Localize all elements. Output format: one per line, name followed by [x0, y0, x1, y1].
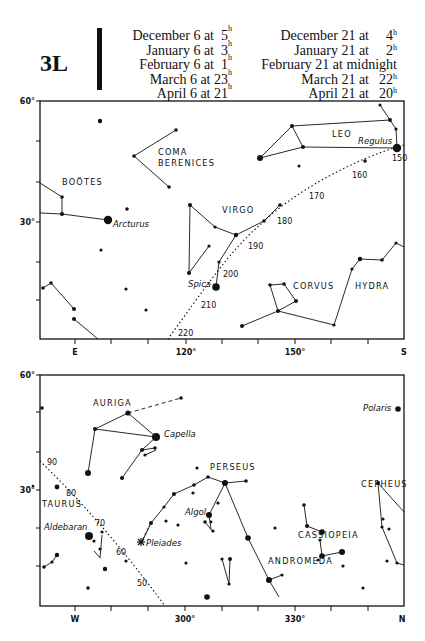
declination-label: 30° [20, 486, 35, 495]
x-axis-labels: W300°330°N [71, 615, 406, 624]
y-axis-labels: 60°30° [20, 371, 35, 495]
constellation-label: PERSEUS [210, 462, 256, 472]
ecliptic-degree-label: 90 [47, 458, 57, 467]
capella-star [152, 433, 160, 441]
ecliptic-degree-label: 70 [95, 519, 105, 528]
constellation-label: AURIGA [93, 398, 132, 408]
star-name-label: Polaris [363, 403, 392, 413]
azimuth-label: N [399, 615, 406, 624]
star-name-label: Pleiades [146, 538, 182, 548]
azimuth-label: W [71, 615, 80, 624]
ecliptic-degree-label: 80 [66, 489, 76, 498]
aldebaran-star [85, 532, 93, 540]
constellation-label: CEPHEUS [361, 479, 408, 489]
declination-label: 60° [20, 371, 35, 380]
x-axis-ticks [75, 606, 368, 611]
ecliptic-degree-label: 50 [137, 579, 147, 588]
star-name-label: Capella [164, 429, 196, 439]
azimuth-label: 330° [285, 615, 306, 624]
star-name-label: Algol [184, 507, 207, 517]
polaris-star [395, 406, 401, 412]
star-chart-north: 60°30° W300°330°N [0, 0, 425, 641]
constellation-label: ANDROMEDA [268, 556, 333, 566]
stars [32, 396, 401, 600]
chart-frame [40, 375, 404, 606]
constellation-label: TAURUS [41, 499, 82, 509]
pleiades-cluster-icon [137, 538, 145, 546]
ecliptic-degree-label: 60 [116, 548, 126, 557]
constellation-label: CASSIOPEIA [298, 530, 359, 540]
azimuth-label: 300° [175, 615, 196, 624]
star-name-label: Aldebaran [43, 522, 88, 532]
constellation-lines [44, 398, 404, 597]
algol-star [206, 512, 212, 518]
